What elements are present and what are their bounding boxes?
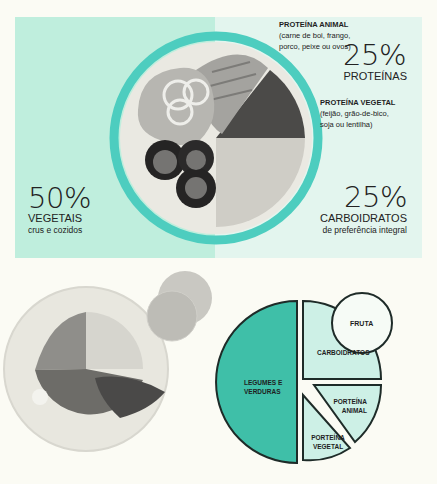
pie-fruit-label: FRUTA <box>350 319 373 329</box>
pie-legumes-label-line2: VERDURAS <box>244 387 282 396</box>
carbs-sub: de preferência integral <box>322 225 407 236</box>
pie-legumes-label: LEGUMES E VERDURAS <box>244 378 282 396</box>
pie-animal-label-line2: ANIMAL <box>333 406 367 415</box>
animal-protein-line1: (carne de boi, frango, <box>279 31 350 41</box>
carbs-percent: 25% <box>344 182 407 212</box>
vegetal-protein-line2: soja ou lentilha) <box>320 120 373 130</box>
fruit-slice-front <box>147 291 197 341</box>
vegetal-protein-line1: (feijão, grão-de-bico, <box>320 109 389 119</box>
pie-legumes-label-line1: LEGUMES E <box>244 378 282 387</box>
proteins-label: PROTEÍNAS <box>343 70 407 83</box>
proteins-percent: 25% <box>343 40 406 70</box>
pie-carbs-label: CARBOIDRATOS <box>317 348 369 358</box>
animal-protein-title: PROTEÍNA ANIMAL <box>279 20 348 30</box>
pie-animal-label-line1: PORTEÍNA <box>333 397 367 406</box>
pie-vegetal-label: PORTEÍNA VEGETAL <box>311 433 345 451</box>
vegetables-label: VEGETAIS <box>28 212 82 225</box>
rice-portion <box>216 138 305 227</box>
vegetables-sub: crus e cozidos <box>28 225 82 236</box>
pie-animal-label: PORTEÍNA ANIMAL <box>333 397 367 415</box>
vegetables-percent: 50% <box>28 183 91 213</box>
carbs-label: CARBOIDRATOS <box>320 212 407 225</box>
pie-vegetal-label-line1: PORTEÍNA <box>311 433 345 442</box>
vegetal-protein-title: PROTEÍNA VEGETAL <box>320 98 395 108</box>
animal-protein-line2: porco, peixe ou ovos) <box>279 42 351 52</box>
pie-vegetal-label-line2: VEGETAL <box>311 442 345 451</box>
bottom-egg <box>32 389 48 405</box>
